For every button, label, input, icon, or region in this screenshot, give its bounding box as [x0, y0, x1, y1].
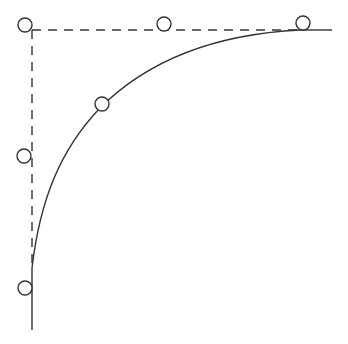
circle-marker [95, 97, 109, 111]
circle-marker [17, 149, 31, 163]
circle-marker [157, 17, 171, 31]
saturation-curve-diagram [0, 0, 348, 344]
circle-marker [296, 16, 310, 30]
marker-group [17, 16, 310, 295]
circle-marker [18, 281, 32, 295]
saturation-curve [32, 30, 300, 268]
circle-marker [18, 18, 32, 32]
